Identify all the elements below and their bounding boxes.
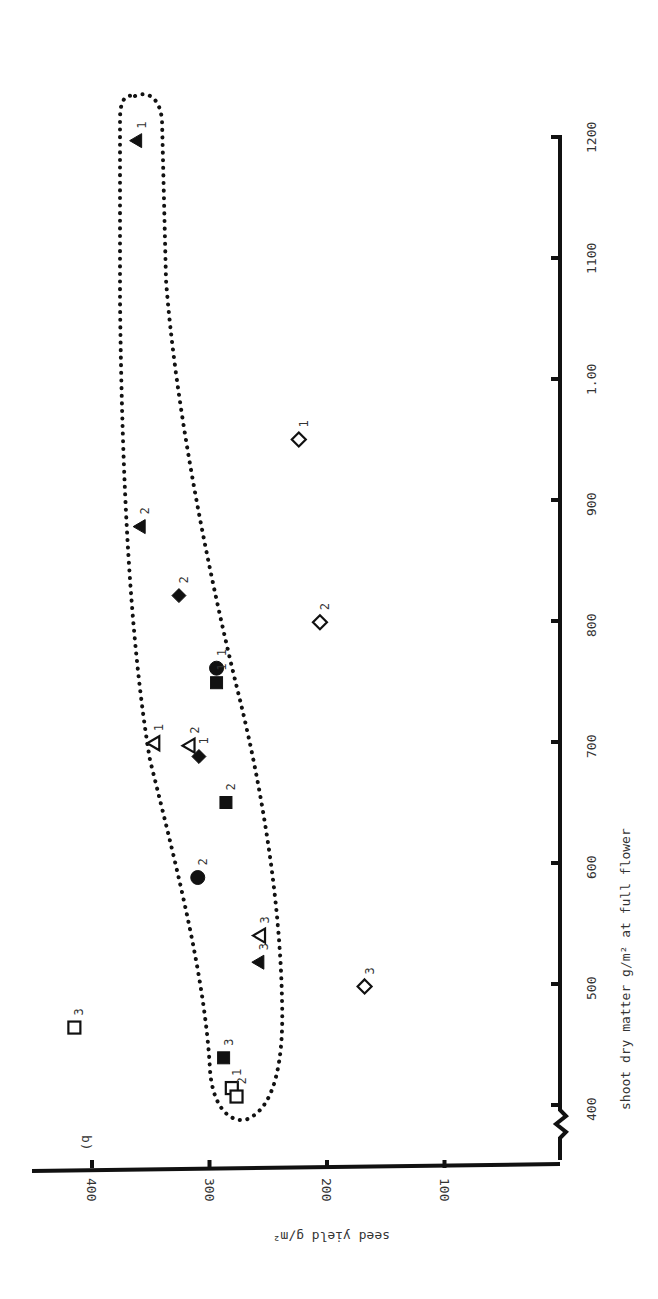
y-tick-label: 300 (202, 1178, 217, 1201)
x-tick-label: 900 (584, 493, 599, 516)
point-label: 3 (257, 943, 271, 950)
square-filled-marker (220, 797, 232, 809)
point-label: 1 (230, 1069, 244, 1076)
point-label: 1 (135, 121, 149, 128)
point-label: 1 (197, 737, 211, 744)
square-open-marker (68, 1022, 80, 1034)
triangle-open-marker (183, 739, 195, 753)
y-axis-label: seed yield g/m² (273, 1229, 390, 1244)
triangle-filled-marker (252, 955, 264, 969)
circle-filled-marker (191, 871, 205, 885)
point-label: 3 (363, 967, 377, 974)
x-tick-label: 700 (584, 735, 599, 758)
diamond-open-marker (313, 615, 327, 629)
x-tick-label: 400 (584, 1098, 599, 1121)
y-tick-label: 100 (437, 1178, 452, 1201)
y-axis: 100200300400 seed yield g/m² (32, 1160, 560, 1244)
x-tick-label: 800 (584, 614, 599, 637)
diamond-open-marker (292, 433, 306, 447)
square-filled-marker (211, 677, 223, 689)
point-label: 2 (224, 783, 238, 790)
y-tick-label: 200 (319, 1178, 334, 1201)
x-tick-label: 1.00 (584, 364, 599, 395)
scatter-plot: 4005006007008009001.0011001200 shoot dry… (0, 0, 658, 1299)
diamond-open-marker (358, 979, 372, 993)
x-tick-label: 600 (584, 856, 599, 879)
point-label: 1 (152, 724, 166, 731)
point-label: 3 (258, 916, 272, 923)
point-label: 3 (72, 1008, 86, 1015)
square-filled-marker (218, 1052, 230, 1064)
x-tick-label: 1100 (584, 243, 599, 274)
point-label: 2 (235, 1077, 249, 1084)
x-axis-label: shoot dry matter g/m² at full flower (618, 828, 633, 1110)
point-label: 1 (215, 663, 229, 670)
x-axis: 4005006007008009001.0011001200 shoot dry… (551, 122, 633, 1160)
data-points: 1231231212312123123 (68, 121, 376, 1102)
x-tick-label: 1200 (584, 122, 599, 153)
point-label: 2 (177, 576, 191, 583)
x-tick-label: 500 (584, 977, 599, 1000)
point-label: 2 (188, 726, 202, 733)
point-label: 1 (297, 420, 311, 427)
square-open-marker (231, 1091, 243, 1103)
point-label: 2 (318, 603, 332, 610)
triangle-filled-marker (130, 134, 142, 148)
point-label: 1 (215, 649, 229, 656)
point-label: 3 (222, 1039, 236, 1046)
diamond-filled-marker (172, 589, 186, 603)
point-label: 2 (138, 507, 152, 514)
panel-label: b) (79, 1135, 94, 1151)
y-tick-label: 400 (84, 1178, 99, 1201)
point-label: 2 (196, 858, 210, 865)
triangle-open-marker (253, 929, 265, 943)
triangle-filled-marker (133, 520, 145, 534)
triangle-open-marker (147, 736, 159, 750)
